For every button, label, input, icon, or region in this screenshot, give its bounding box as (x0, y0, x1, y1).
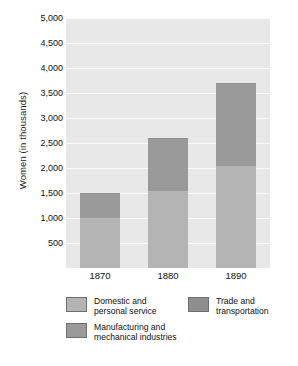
bar-1890[interactable] (216, 83, 256, 269)
legend-item[interactable]: Manufacturing and mechanical industries (66, 322, 177, 342)
legend-item[interactable]: Domestic and personal service (66, 296, 157, 316)
gridline (66, 43, 270, 44)
bar-segment[interactable] (80, 218, 120, 268)
legend-swatch-icon (66, 297, 87, 312)
bar-segment[interactable] (216, 83, 256, 85)
y-axis-tick-label: 500 (30, 238, 63, 248)
bar-segment[interactable] (148, 138, 188, 139)
y-axis-tick-label: 4,000 (30, 63, 63, 73)
bar-segment[interactable] (148, 191, 188, 269)
bar-segment[interactable] (148, 139, 188, 191)
y-axis-tick-label: 3,000 (30, 113, 63, 123)
legend-swatch-icon (66, 323, 87, 338)
y-axis-tick-labels: 5001,0001,5002,0002,5003,0003,5004,0004,… (30, 18, 63, 268)
chart-legend: Domestic and personal serviceManufacturi… (66, 296, 292, 358)
x-axis-tick-labels: 187018801890 (66, 270, 270, 286)
y-axis-tick-label: 2,500 (30, 138, 63, 148)
bar-segment[interactable] (80, 193, 120, 194)
y-axis-tick-label: 5,000 (30, 13, 63, 23)
y-axis-tick-label: 2,000 (30, 163, 63, 173)
bar-segment[interactable] (216, 84, 256, 166)
legend-label: Manufacturing and mechanical industries (94, 322, 177, 342)
gridline (66, 18, 270, 19)
gridline (66, 68, 270, 69)
y-axis-tick-label: 3,500 (30, 88, 63, 98)
x-axis-tick-label: 1870 (89, 270, 110, 281)
bar-segment[interactable] (80, 194, 120, 219)
bar-segment[interactable] (216, 166, 256, 269)
legend-label: Domestic and personal service (94, 296, 157, 316)
legend-item[interactable]: Trade and transportation (188, 296, 269, 316)
bar-1880[interactable] (148, 138, 188, 269)
x-axis-tick-label: 1880 (157, 270, 178, 281)
stacked-bar-chart-figure: Women (in thousands) 5001,0001,5002,0002… (0, 0, 298, 366)
legend-swatch-icon (188, 297, 209, 312)
plot-area (66, 18, 270, 268)
y-axis-title-label: Women (in thousands) (18, 91, 29, 188)
bar-1870[interactable] (80, 193, 120, 268)
x-axis-tick-label: 1890 (225, 270, 246, 281)
y-axis-tick-label: 1,500 (30, 188, 63, 198)
y-axis-tick-label: 1,000 (30, 213, 63, 223)
y-axis-tick-label: 4,500 (30, 38, 63, 48)
legend-label: Trade and transportation (216, 296, 269, 316)
